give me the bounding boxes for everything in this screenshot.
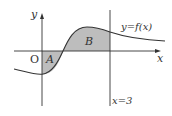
graph-diagram: y x O A B y=f(x) x=3: [0, 0, 172, 116]
y-axis-arrow-icon: [40, 13, 44, 19]
vertical-line-label: x=3: [112, 95, 132, 106]
region-b-label: B: [84, 35, 93, 48]
region-a-label: A: [45, 53, 54, 66]
y-axis-label: y: [30, 8, 38, 21]
curve-label: y=f(x): [120, 21, 152, 32]
origin-label: O: [30, 53, 39, 66]
x-axis-label: x: [157, 52, 164, 65]
